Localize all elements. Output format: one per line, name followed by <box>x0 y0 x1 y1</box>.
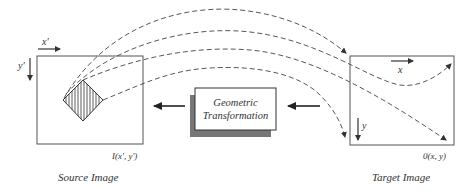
target-y-axis-label: y <box>362 120 366 131</box>
source-caption: Source Image <box>58 171 118 183</box>
transformation-label-line2: Transformation <box>203 109 268 122</box>
transformation-label-line1: Geometric <box>213 96 257 109</box>
hatched-region <box>63 78 103 124</box>
source-x-axis-label: x' <box>42 36 49 47</box>
target-x-axis-label: x <box>398 64 402 75</box>
mapping-curve-2 <box>66 31 451 94</box>
source-function-label: I(x', y') <box>112 151 137 161</box>
target-function-label: 0(x, y) <box>423 151 446 161</box>
target-caption: Target Image <box>372 171 430 183</box>
mapping-curve-1 <box>64 9 346 98</box>
source-y-axis-label: y' <box>18 60 25 71</box>
transformation-label: Geometric Transformation <box>195 88 276 130</box>
